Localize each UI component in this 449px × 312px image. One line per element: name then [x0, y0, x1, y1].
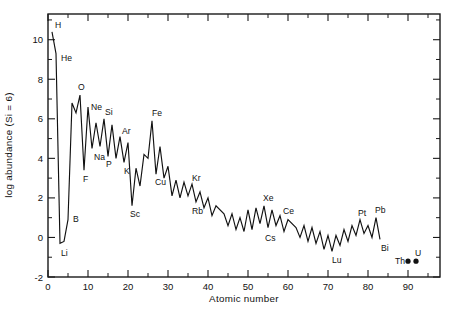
element-label-b: B: [73, 214, 79, 224]
element-label-bi: Bi: [381, 243, 389, 253]
abundance-chart-figure: 0102030405060708090 -20246810 HHeLiBOFNe…: [0, 0, 449, 312]
element-label-pb: Pb: [375, 205, 386, 215]
y-axis-minor-ticks: [48, 20, 440, 257]
element-label-li: Li: [61, 248, 68, 258]
data-series-group: [52, 32, 380, 251]
element-label-rb: Rb: [192, 206, 203, 216]
x-axis-minor-ticks: [68, 14, 428, 277]
y-tick-label: 6: [38, 113, 43, 124]
element-label-k: K: [124, 166, 130, 176]
x-tick-label: 0: [45, 281, 50, 292]
x-tick-label: 90: [403, 281, 414, 292]
element-label-o: O: [78, 82, 85, 92]
element-label-kr: Kr: [192, 173, 201, 183]
x-axis-title: Atomic number: [209, 293, 279, 304]
x-tick-label: 70: [323, 281, 334, 292]
element-label-cu: Cu: [155, 177, 166, 187]
x-tick-label: 10: [83, 281, 94, 292]
x-tick-label: 60: [283, 281, 294, 292]
x-tick-label: 30: [163, 281, 174, 292]
element-label-pt: Pt: [358, 208, 367, 218]
x-axis-major-ticks: [48, 14, 408, 277]
y-axis-major-ticks: [48, 40, 440, 277]
element-label-lu: Lu: [332, 255, 342, 265]
element-label-p: P: [106, 159, 112, 169]
element-label-ne: Ne: [91, 102, 102, 112]
chart-canvas: 0102030405060708090 -20246810 HHeLiBOFNe…: [0, 0, 449, 312]
y-tick-label: 4: [38, 153, 43, 164]
element-label-ar: Ar: [122, 126, 131, 136]
y-tick-label: 10: [32, 34, 43, 45]
data-point-u: [413, 259, 418, 264]
x-tick-label: 20: [123, 281, 134, 292]
element-label-f: F: [83, 174, 88, 184]
y-tick-label: 2: [38, 192, 43, 203]
element-label-xe: Xe: [263, 193, 274, 203]
data-point-th: [405, 259, 410, 264]
abundance-curve: [52, 32, 380, 251]
element-label-ce: Ce: [283, 206, 294, 216]
element-label-si: Si: [105, 107, 113, 117]
element-label-h: H: [55, 20, 61, 30]
element-label-he: He: [61, 53, 72, 63]
y-tick-label: 8: [38, 74, 43, 85]
element-label-u: U: [415, 248, 421, 258]
y-tick-label: -2: [35, 272, 43, 283]
x-tick-label: 40: [203, 281, 214, 292]
x-tick-label: 80: [363, 281, 374, 292]
x-axis-tick-labels: 0102030405060708090: [45, 281, 413, 292]
element-label-th: Th: [395, 256, 405, 266]
element-label-cs: Cs: [265, 233, 276, 243]
y-tick-label: 0: [38, 232, 43, 243]
x-tick-label: 50: [243, 281, 254, 292]
element-label-fe: Fe: [152, 108, 162, 118]
element-label-na: Na: [94, 152, 105, 162]
data-points-group: [405, 259, 418, 264]
y-axis-title: log abundance (Si = 6): [3, 92, 14, 197]
element-label-sc: Sc: [130, 209, 141, 219]
y-axis-tick-labels: -20246810: [32, 34, 43, 282]
